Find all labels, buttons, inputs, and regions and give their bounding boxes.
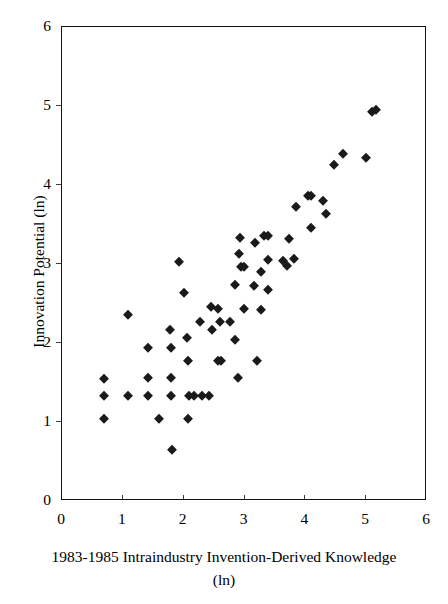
data-point: [230, 280, 240, 290]
data-point: [306, 222, 316, 232]
data-point: [213, 304, 223, 314]
data-point: [143, 343, 153, 353]
x-axis-tick-label: 3: [229, 511, 259, 527]
data-point: [250, 237, 260, 247]
data-point: [99, 391, 109, 401]
data-point: [263, 285, 273, 295]
data-point: [338, 149, 348, 159]
data-point: [225, 317, 235, 327]
scatter-plot-figure: 01234560123456 Innovation Potential (ln)…: [0, 0, 448, 604]
data-point: [329, 160, 339, 170]
data-point: [249, 281, 259, 291]
data-point: [166, 343, 176, 353]
data-point: [284, 233, 294, 243]
data-point: [207, 325, 217, 335]
data-point: [233, 373, 243, 383]
plot-area: [61, 26, 426, 500]
data-point: [99, 414, 109, 424]
data-point: [123, 391, 133, 401]
y-axis-tick-label: 5: [27, 97, 51, 113]
data-point: [321, 209, 331, 219]
data-point: [167, 444, 177, 454]
x-axis-title: 1983-1985 Intraindustry Invention-Derive…: [0, 545, 448, 591]
data-point: [215, 317, 225, 327]
data-point: [361, 153, 371, 163]
x-axis-tick-label: 0: [46, 511, 76, 527]
x-axis-title-line-2: (ln): [0, 568, 448, 591]
data-point: [256, 267, 266, 277]
data-point: [290, 202, 300, 212]
data-point: [174, 257, 184, 267]
data-point: [318, 196, 328, 206]
data-point: [183, 414, 193, 424]
data-points-layer: [62, 27, 425, 499]
data-point: [182, 333, 192, 343]
x-axis-tick-label: 1: [107, 511, 137, 527]
data-point: [239, 304, 249, 314]
data-point: [154, 414, 164, 424]
y-axis-tick-label: 0: [27, 492, 51, 508]
x-axis-title-line-1: 1983-1985 Intraindustry Invention-Derive…: [52, 548, 397, 565]
data-point: [195, 317, 205, 327]
x-axis-tick-label: 6: [411, 511, 441, 527]
y-axis-tick-label: 1: [27, 413, 51, 429]
data-point: [143, 373, 153, 383]
data-point: [183, 356, 193, 366]
data-point: [263, 255, 273, 265]
data-point: [179, 288, 189, 298]
data-point: [234, 248, 244, 258]
x-axis-tick-label: 5: [350, 511, 380, 527]
y-axis-title: Innovation Potential (ln): [30, 152, 47, 392]
y-axis-tick-label: 6: [27, 18, 51, 34]
data-point: [235, 233, 245, 243]
data-point: [256, 305, 266, 315]
x-axis-tick-label: 4: [289, 511, 319, 527]
data-point: [165, 325, 175, 335]
data-point: [230, 335, 240, 345]
x-axis-tick-label: 2: [168, 511, 198, 527]
data-point: [251, 356, 261, 366]
data-point: [204, 391, 214, 401]
data-point: [123, 310, 133, 320]
data-point: [166, 391, 176, 401]
data-point: [143, 391, 153, 401]
data-point: [99, 374, 109, 384]
data-point: [166, 373, 176, 383]
